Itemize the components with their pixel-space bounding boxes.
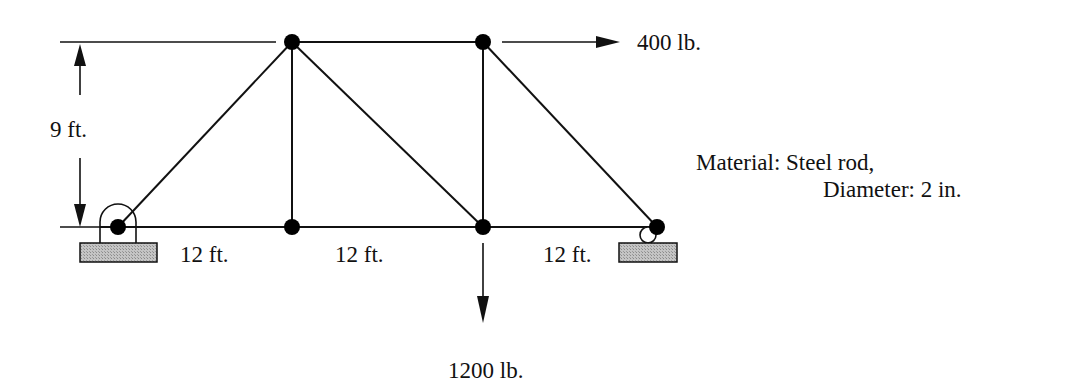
- horizontal-load-arrow-icon: [502, 36, 620, 48]
- joint-top-right: [475, 34, 491, 50]
- horizontal-load-label: 400 lb.: [637, 30, 701, 55]
- diagonal-left: [118, 42, 292, 227]
- vertical-load-label: 1200 lb.: [448, 358, 523, 383]
- span-label-1: 12 ft.: [180, 242, 229, 267]
- truss-diagram: 9 ft. 12 ft. 12 ft. 12 ft. 400 lb. 1200 …: [0, 0, 1066, 392]
- diagonal-right: [483, 42, 657, 227]
- span-label-3: 12 ft.: [543, 242, 592, 267]
- vertical-load-arrow-icon: [477, 243, 489, 323]
- joint-bottom-b: [284, 219, 300, 235]
- material-label: Material: Steel rod,: [696, 150, 874, 175]
- joint-bottom-c: [475, 219, 491, 235]
- truss-members: [100, 42, 660, 227]
- span-label-2: 12 ft.: [335, 242, 384, 267]
- dimension-extension-lines: [60, 42, 276, 227]
- joint-bottom-a: [110, 219, 126, 235]
- diagonal-center: [292, 42, 483, 227]
- joint-bottom-d: [649, 219, 665, 235]
- height-label: 9 ft.: [50, 117, 87, 142]
- roller-support: [619, 227, 677, 262]
- joint-top-left: [284, 34, 300, 50]
- diameter-label: Diameter: 2 in.: [823, 177, 962, 202]
